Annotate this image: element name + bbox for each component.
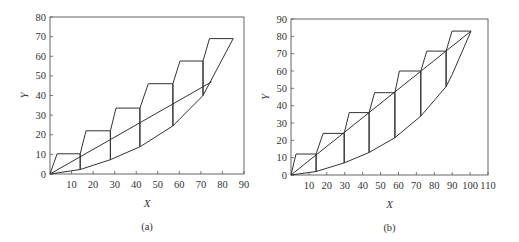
series-stages-staircase <box>50 39 233 174</box>
y-tick-label: 80 <box>36 12 47 23</box>
y-tick-label: 40 <box>36 90 47 101</box>
x-tick-label: 90 <box>447 180 458 191</box>
x-tick-label: 20 <box>88 179 99 190</box>
x-tick-label: 110 <box>480 180 495 191</box>
y-tick-label: 30 <box>36 110 47 121</box>
y-tick-label: 10 <box>36 149 47 160</box>
y-tick-label: 60 <box>277 66 288 77</box>
y-tick-label: 40 <box>277 100 288 111</box>
x-tick-label: 70 <box>411 180 422 191</box>
x-tick-label: 100 <box>462 180 478 191</box>
y-tick-label: 0 <box>41 169 46 180</box>
y-tick-label: 70 <box>36 31 47 42</box>
x-tick-label: 30 <box>339 180 350 191</box>
x-tick-label: 10 <box>304 180 315 191</box>
y-tick-label: 0 <box>282 170 287 181</box>
x-tick-label: 10 <box>66 179 77 190</box>
y-tick-label: 20 <box>277 135 288 146</box>
y-tick-label: 50 <box>36 70 47 81</box>
y-axis-title: Y <box>259 92 271 100</box>
y-tick-label: 10 <box>277 152 288 163</box>
y-tick-label: 30 <box>277 118 288 129</box>
chart-panel-b: 0102030405060708090102030405060708090100… <box>259 14 496 235</box>
x-tick-label: 50 <box>375 180 386 191</box>
figure-canvas: 01020304050607080102030405060708090XY(a)… <box>0 0 519 242</box>
series-operating-line <box>291 31 471 175</box>
y-tick-label: 60 <box>36 51 47 62</box>
x-tick-label: 40 <box>357 180 368 191</box>
x-tick-label: 80 <box>217 179 228 190</box>
y-tick-label: 90 <box>277 14 288 25</box>
x-tick-label: 50 <box>153 179 164 190</box>
x-tick-label: 20 <box>322 180 333 191</box>
x-tick-label: 30 <box>109 179 120 190</box>
series-operating-line <box>50 82 212 174</box>
x-tick-label: 40 <box>131 179 142 190</box>
x-tick-label: 60 <box>393 180 404 191</box>
panel-caption: (b) <box>383 222 396 234</box>
y-tick-label: 50 <box>277 83 288 94</box>
plot-frame <box>50 17 244 174</box>
chart-panel-a: 01020304050607080102030405060708090XY(a) <box>18 12 249 234</box>
x-tick-label: 70 <box>196 179 207 190</box>
x-axis-title: X <box>143 197 152 209</box>
y-axis-title: Y <box>18 91 30 99</box>
x-axis-title: X <box>385 198 394 210</box>
x-tick-label: 60 <box>174 179 185 190</box>
y-tick-label: 20 <box>36 129 47 140</box>
panel-caption: (a) <box>141 221 153 233</box>
x-tick-label: 90 <box>239 179 250 190</box>
x-tick-label: 80 <box>429 180 440 191</box>
y-tick-label: 80 <box>277 31 288 42</box>
y-tick-label: 70 <box>277 48 288 59</box>
